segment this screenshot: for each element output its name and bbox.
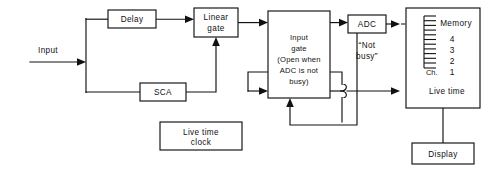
arrowhead-input-gate-enable — [286, 98, 294, 107]
block-memory-label: Memory — [440, 19, 472, 28]
block-memory[interactable]: Memory 4 3 2 Ch. 1 Live time — [406, 8, 480, 108]
block-live-time-clock[interactable]: Live time clock — [160, 122, 242, 150]
block-display-label: Display — [428, 150, 458, 159]
block-live-time-label: Live time — [429, 87, 465, 96]
block-input-gate-label-line2: gate — [291, 44, 307, 53]
block-diagram-canvas: Delay Linear gate SCA Input gate (Open w… — [0, 0, 496, 175]
block-display[interactable]: Display — [412, 143, 474, 164]
channel-number-2: 2 — [450, 56, 455, 66]
arrowhead-live-time-in — [391, 87, 400, 95]
wire-linear-gate-to-input-gate — [238, 19, 268, 27]
block-sca[interactable]: SCA — [140, 83, 186, 101]
arrowhead-input-gate-in — [259, 19, 268, 27]
block-linear-gate-label-line2: gate — [207, 24, 224, 33]
block-live-time-clock-label-line1: Live time — [183, 128, 219, 137]
block-input-gate-label-line5: busy) — [289, 77, 309, 86]
channel-scale-ch-label: Ch. — [426, 68, 438, 77]
label-input: Input — [38, 46, 58, 55]
block-input-gate[interactable]: Input gate (Open when ADC is not busy) — [268, 11, 330, 98]
channel-number-3: 3 — [450, 45, 455, 55]
wire-to-live-time — [330, 85, 400, 98]
channel-number-4: 4 — [450, 34, 455, 44]
block-delay[interactable]: Delay — [108, 10, 156, 28]
wire-sca-to-linear-gate — [186, 37, 220, 92]
channel-number-1: 1 — [450, 67, 455, 77]
diagram-svg: Delay Linear gate SCA Input gate (Open w… — [0, 0, 496, 175]
arrowhead-linear-gate-gate-in — [212, 37, 220, 46]
block-sca-label: SCA — [154, 88, 172, 97]
block-adc-label: ADC — [358, 20, 376, 29]
arrowhead-adc-in — [339, 19, 348, 27]
block-input-gate-label-line3: (Open when — [277, 55, 320, 64]
block-live-time-clock-label-line2: clock — [191, 138, 212, 147]
wire-delay-to-linear-gate — [156, 15, 194, 23]
block-adc[interactable]: ADC — [348, 15, 386, 33]
wire-input-to-bus — [30, 58, 86, 66]
label-not-busy-line1: “Not — [359, 41, 376, 50]
block-linear-gate-label-line1: Linear — [204, 13, 229, 22]
wire-input-gate-to-adc — [330, 19, 348, 27]
block-delay-label: Delay — [121, 15, 144, 24]
block-input-gate-label-line1: Input — [290, 33, 309, 42]
arrowhead-input — [77, 58, 86, 66]
arrowhead-memory-in — [391, 20, 400, 28]
block-input-gate-label-line4: ADC is not — [280, 66, 319, 75]
block-linear-gate[interactable]: Linear gate — [194, 8, 238, 37]
label-not-busy-line2: busy” — [356, 52, 378, 61]
arrowhead-linear-gate-in — [185, 15, 194, 23]
